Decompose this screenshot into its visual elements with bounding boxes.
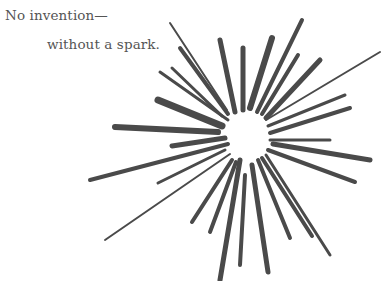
spark-burst-illustration bbox=[0, 0, 391, 281]
